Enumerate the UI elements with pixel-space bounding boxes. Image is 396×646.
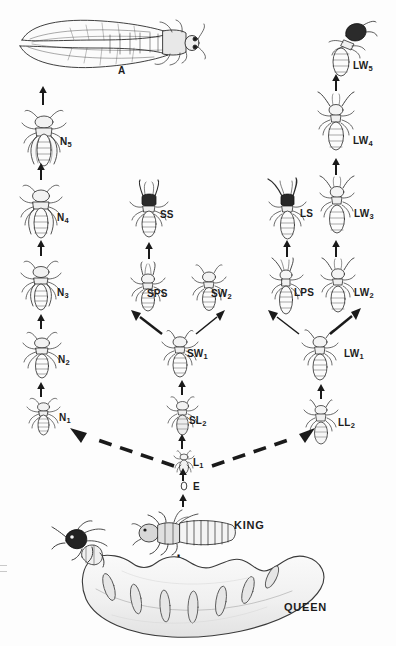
arrow-lps-to-ls [282,240,292,258]
arrow-sw1-to-sps [131,310,165,336]
caste-label-LL2: LL2 [338,418,355,428]
caste-label-SPS: SPS [147,289,168,299]
illustration-long-worker-3 [314,176,364,238]
caste-label-LW4: LW4 [353,136,373,146]
edge-artifact [0,565,7,566]
arrow-king-to-e [178,494,188,508]
termite-caste-diagram: A N5 [0,0,396,646]
arrow-lw1-to-lps [268,310,302,336]
caste-label-N1: N1 [59,413,71,423]
caste-label-LW1: LW1 [344,349,364,359]
caste-label-N5: N5 [60,137,72,147]
caste-label-SW2: SW2 [211,289,232,299]
arrow-n2-to-n3 [36,314,46,330]
arrow-n3-to-n4 [36,240,46,257]
arrow-lw2-to-lw3 [331,240,341,258]
caste-label-A: A [118,66,125,76]
caste-label-N2: N2 [58,355,70,365]
caste-label-N3: N3 [57,288,69,298]
arrow-l1-to-sl2 [177,434,187,450]
caste-label-QUEEN: QUEEN [284,602,327,613]
caste-label-SL2: SL2 [189,416,207,426]
caste-label-LW5: LW5 [353,61,373,71]
arrow-n1-to-n2 [36,382,46,398]
arrow-n5-to-a [38,86,48,106]
arrow-e-to-l1 [178,468,188,482]
illustration-alate-adult [10,12,205,74]
caste-label-LS: LS [300,209,313,219]
arrow-sps-to-ss [144,242,154,260]
arrow-lw1-to-lw2 [330,308,362,336]
caste-label-LPS: LPS [294,288,314,298]
arrow-lw3-to-lw4 [331,158,341,176]
arrow-sl2-to-sw1 [177,380,187,396]
arrow-sw1-to-sw2 [196,310,226,336]
dashed-arrow-l1-to-n1 [70,428,178,470]
caste-label-N4: N4 [57,213,69,223]
illustration-long-worker-1 [296,328,348,382]
caste-label-L1: L1 [193,458,204,468]
illustration-queen [52,527,332,639]
dashed-arrow-l1-to-ll2 [210,428,316,470]
arrow-ll2-to-lw1 [316,384,326,400]
caste-label-LW2: LW2 [354,288,374,298]
caste-label-LW3: LW3 [354,209,374,219]
arrow-n4-to-n5 [36,163,46,181]
caste-label-SW1: SW1 [187,349,208,359]
edge-artifact [0,571,7,572]
caste-label-SS: SS [160,210,174,220]
caste-label-E: E [193,482,200,492]
arrow-lw4-to-lw5 [331,74,341,92]
